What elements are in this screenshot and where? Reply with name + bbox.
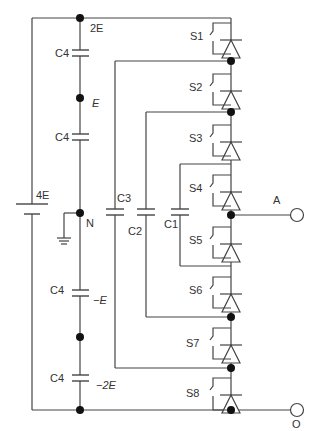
capacitor-c4-label: C4 [55, 47, 69, 59]
node-label-e: E [92, 97, 100, 109]
node-label-2e: 2E [90, 22, 103, 34]
switch-diode-icons [210, 23, 242, 413]
capacitor-c4-label: C4 [50, 372, 64, 384]
capacitor-icon [106, 209, 189, 215]
capacitor-c2-label: C2 [128, 225, 142, 237]
capacitor-c3-label: C3 [117, 192, 131, 204]
junction-nodes [76, 14, 235, 414]
capacitor-c4-label: C4 [50, 284, 64, 296]
switch-s1-label: S1 [190, 30, 203, 42]
terminal-a-label: A [273, 194, 281, 206]
switch-s8-label: S8 [186, 387, 199, 399]
node-label-n: N [86, 217, 94, 229]
capacitor-c1-label: C1 [164, 218, 178, 230]
circuit-diagram: 4E 2E E N −E −2E C4 C4 C4 C4 C3 C2 C1 S1… [0, 0, 313, 431]
source-label: 4E [36, 189, 49, 201]
circuit-schematic: 4E 2E E N −E −2E C4 C4 C4 C4 C3 C2 C1 S1… [0, 0, 313, 431]
terminal-o[interactable] [291, 404, 304, 417]
capacitor-c4-label: C4 [55, 131, 69, 143]
switch-s5-label: S5 [189, 234, 202, 246]
dc-source-icon [16, 204, 48, 214]
switch-s6-label: S6 [189, 284, 202, 296]
terminal-a[interactable] [291, 209, 304, 222]
node-label-neg-e: −E [93, 294, 107, 306]
node-label-neg-2e: −2E [96, 379, 117, 391]
switch-s7-label: S7 [186, 337, 199, 349]
switch-s2-label: S2 [189, 81, 202, 93]
terminal-o-label: O [292, 418, 301, 430]
switch-s3-label: S3 [189, 132, 202, 144]
switch-s4-label: S4 [189, 182, 202, 194]
ground-icon [57, 238, 71, 244]
